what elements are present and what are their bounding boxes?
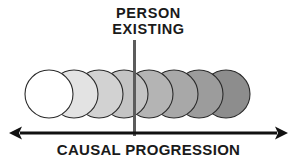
axis-caption: CAUSAL PROGRESSION (0, 141, 297, 158)
causal-progression-diagram: PERSON EXISTING CAUSAL PROGRESSION (0, 0, 297, 166)
